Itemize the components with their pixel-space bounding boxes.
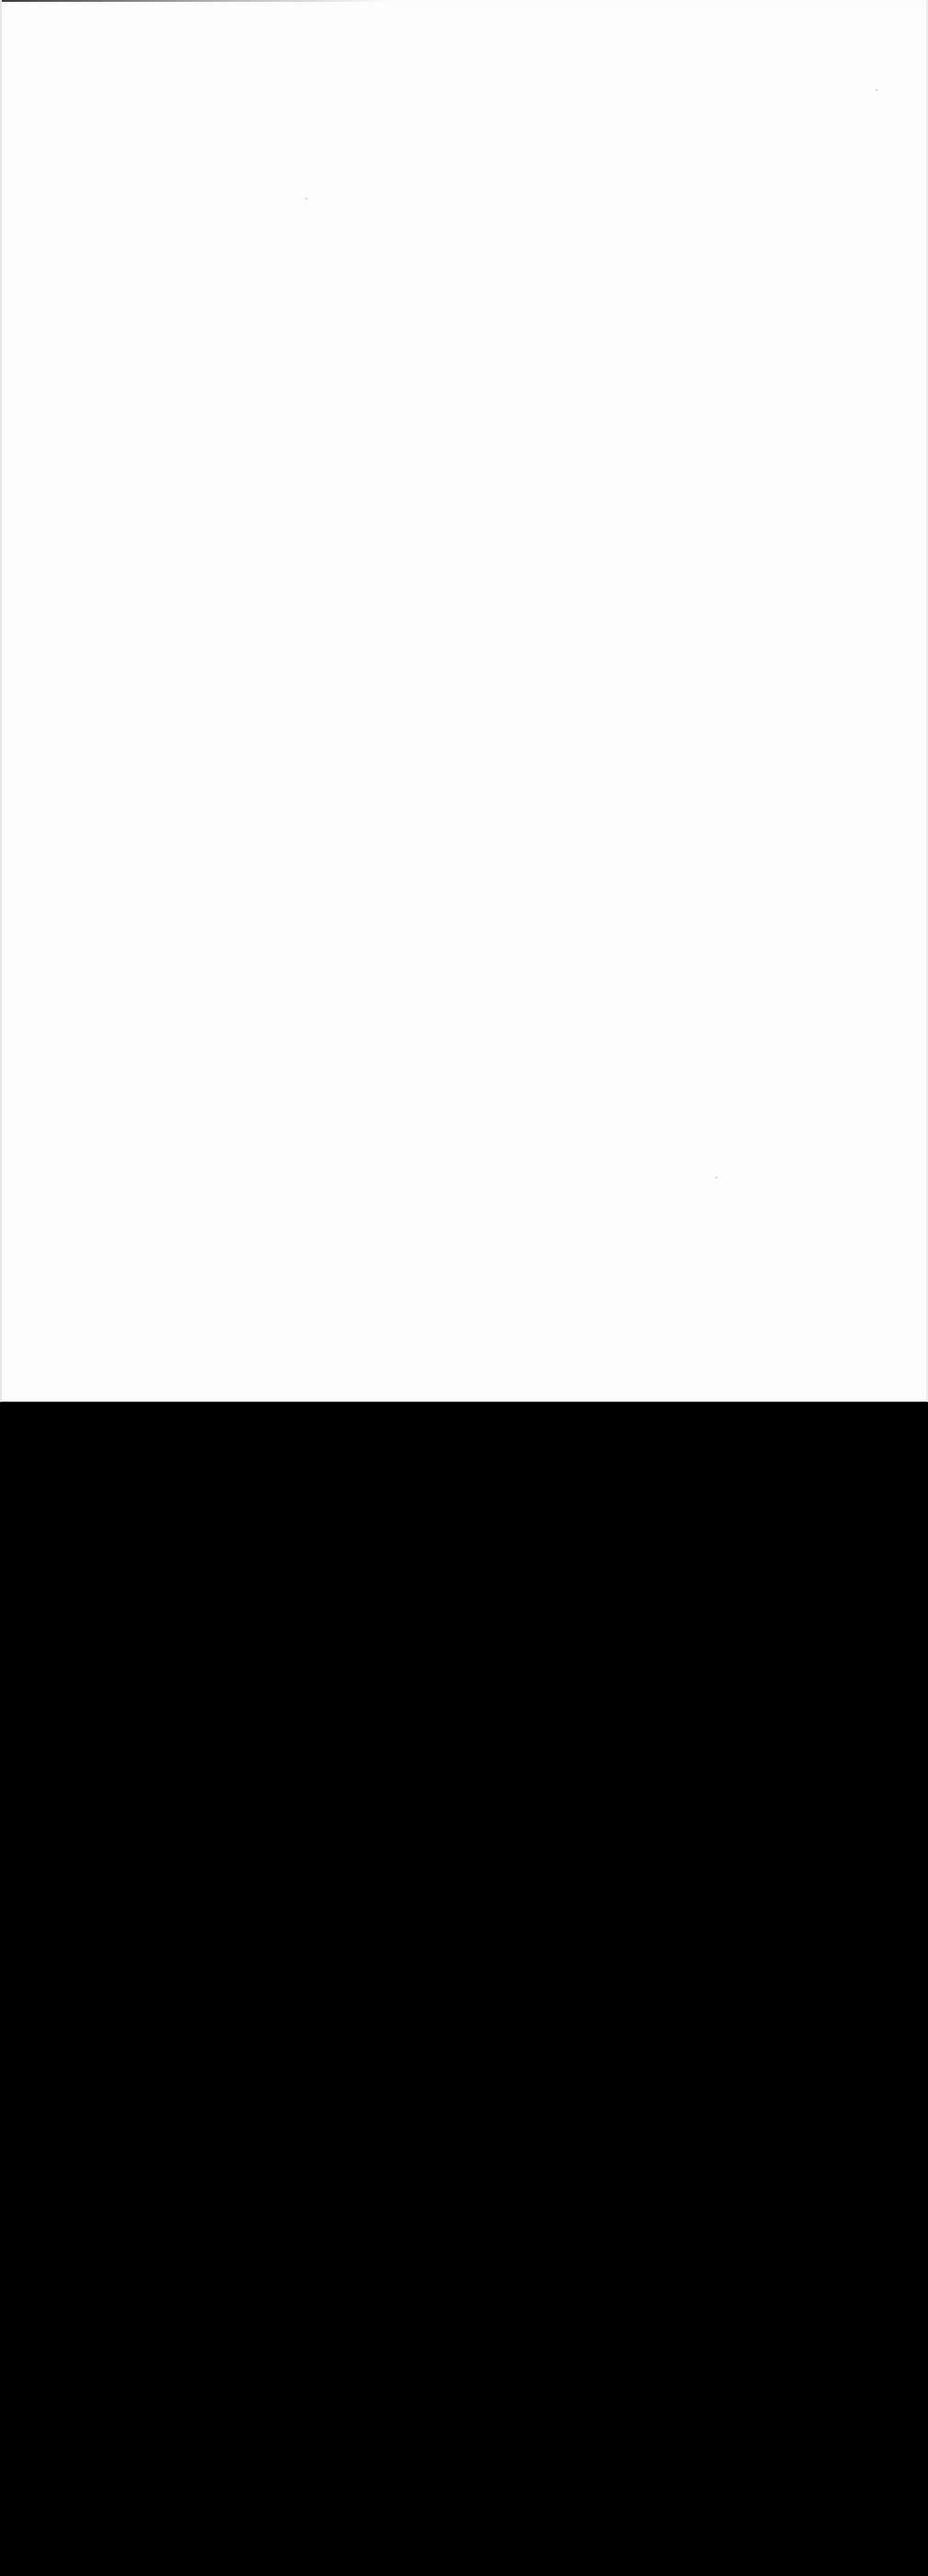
artifact-speck: [876, 89, 877, 91]
artifact-speck: [716, 1177, 717, 1179]
top-edge-shadow: [2, 0, 388, 2]
black-filler-area: [0, 1402, 928, 2576]
artifact-speck: [305, 198, 307, 200]
blank-page-viewport: [0, 0, 928, 1402]
blank-page-surface: [7, 6, 921, 1396]
